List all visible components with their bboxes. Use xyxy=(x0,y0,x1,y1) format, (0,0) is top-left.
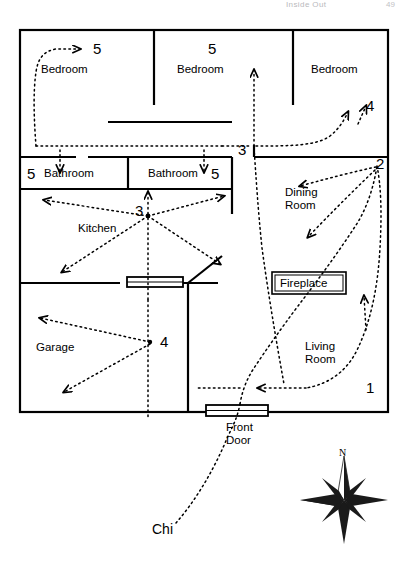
chi-label: Chi xyxy=(152,521,173,537)
room-label-dining-1: Dining xyxy=(285,186,318,200)
marker-hall-junction: 3 xyxy=(238,142,246,157)
marker-bedroom-left: 5 xyxy=(93,41,101,56)
chi-flow-garage xyxy=(40,318,150,392)
floor-plan-drawing xyxy=(0,0,410,564)
compass-rose-icon xyxy=(300,456,388,544)
room-label-bathroom-left: Bathroom xyxy=(44,167,94,181)
room-label-dining-2: Room xyxy=(285,199,316,213)
chi-flow-kitchen xyxy=(44,192,224,420)
front-door-label-2: Door xyxy=(226,434,251,448)
north-label: N xyxy=(339,447,346,458)
room-label-bedroom-left: Bedroom xyxy=(41,63,88,77)
chi-flow-main xyxy=(176,166,381,523)
front-door-label-1: Front xyxy=(226,421,253,435)
marker-bedroom-middle: 5 xyxy=(208,41,216,56)
room-label-kitchen: Kitchen xyxy=(78,222,116,236)
marker-garage: 4 xyxy=(160,334,168,349)
fireplace-label: Fireplace xyxy=(280,277,327,291)
marker-kitchen: 3 xyxy=(135,203,143,218)
room-label-bedroom-right: Bedroom xyxy=(311,63,358,77)
garage-node xyxy=(148,340,152,344)
room-label-living-2: Room xyxy=(305,353,336,367)
room-label-bedroom-middle: Bedroom xyxy=(177,63,224,77)
marker-bathroom-left: 5 xyxy=(27,166,35,181)
chi-flow-bedroom-right xyxy=(358,106,366,124)
room-label-bathroom-right: Bathroom xyxy=(148,167,198,181)
marker-living: 1 xyxy=(366,380,374,395)
kitchen-node xyxy=(146,214,151,219)
marker-dining: 2 xyxy=(376,156,384,171)
marker-bathroom-right: 5 xyxy=(211,166,219,181)
room-label-garage: Garage xyxy=(36,341,74,355)
floor-plan-page: Inside Out 49 xyxy=(0,0,410,564)
room-label-living-1: Living xyxy=(305,340,335,354)
interior-door-symbol xyxy=(127,277,183,287)
marker-bedroom-right: 4 xyxy=(366,98,374,113)
